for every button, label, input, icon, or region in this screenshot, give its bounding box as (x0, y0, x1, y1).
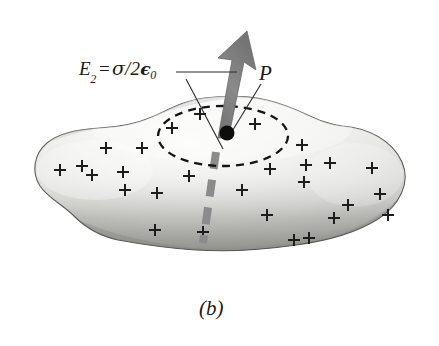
numeral-two: 2 (131, 58, 141, 79)
equals-sign: = (97, 58, 112, 79)
sigma-symbol: σ (112, 57, 125, 79)
field-subscript: 2 (90, 72, 96, 86)
point-label: P (259, 61, 272, 86)
physics-figure (0, 0, 439, 346)
epsilon-subscript: 0 (150, 68, 156, 82)
blob-shading (20, 86, 420, 262)
field-point-dot (220, 126, 235, 141)
charged-conductor-slab (20, 86, 420, 262)
field-magnitude-label: E2=σ/2ϵ0 (79, 57, 157, 84)
figure-caption: (b) (199, 296, 224, 321)
